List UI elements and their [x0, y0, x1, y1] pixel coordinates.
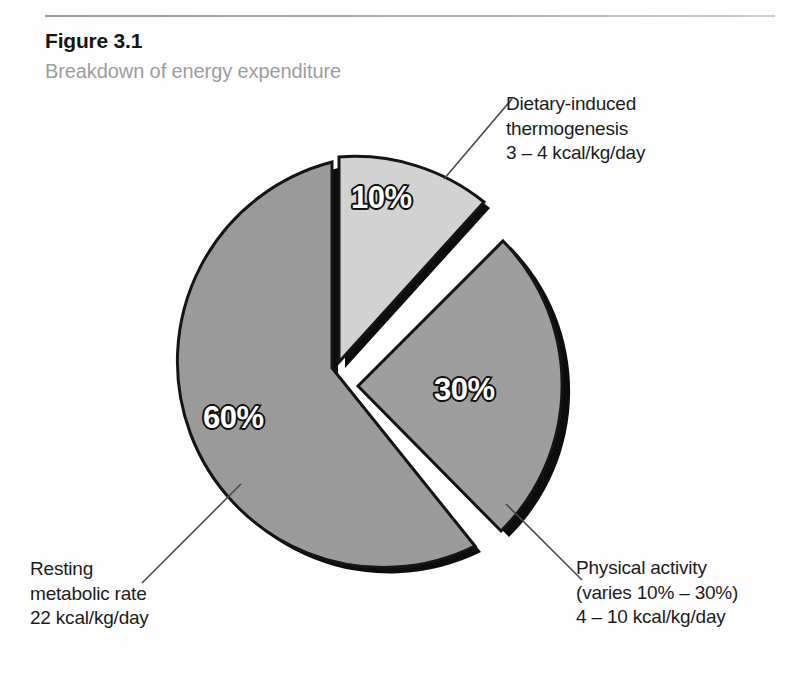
pie-chart: 10% 30% 60% Dietary-induced thermogenesi… — [0, 0, 792, 675]
slice-label-resting-percent: 60% — [203, 400, 264, 436]
callout-dietary-induced-thermogenesis: Dietary-induced thermogenesis 3 – 4 kcal… — [506, 92, 756, 166]
figure-page: Figure 3.1 Breakdown of energy expenditu… — [0, 0, 792, 675]
callout-physical-activity: Physical activity (varies 10% – 30%) 4 –… — [576, 556, 791, 630]
slice-label-dietary-percent: 10% — [351, 180, 412, 216]
callout-resting-metabolic-rate: Resting metabolic rate 22 kcal/kg/day — [30, 557, 240, 631]
leader-line-physical — [506, 504, 582, 580]
leader-line-dietary — [444, 99, 512, 179]
slice-label-physical-percent: 30% — [434, 372, 495, 408]
